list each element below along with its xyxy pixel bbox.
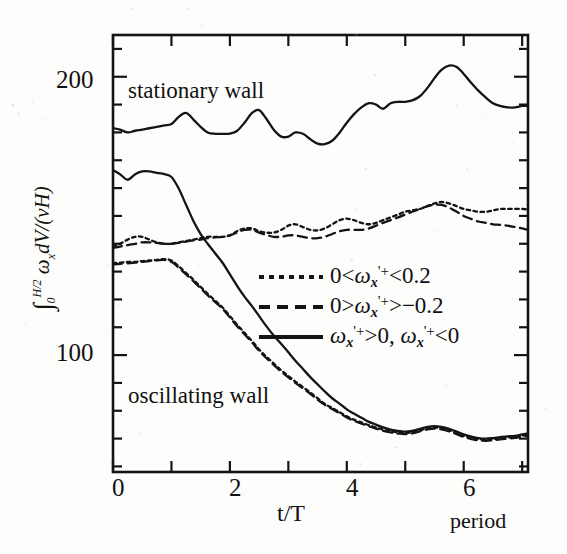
legend-swatch-dashed: [258, 301, 324, 313]
curve-1: [113, 202, 528, 247]
annotation-stationary-wall: stationary wall: [128, 78, 264, 104]
legend-swatch-dotted: [258, 271, 324, 283]
x-tick-label-4: 4: [346, 474, 359, 502]
dv-term: dV: [30, 231, 54, 254]
legend-swatch-solid: [258, 331, 324, 343]
legend-row-dashed: 0>ωx'+>−0.2: [258, 292, 459, 322]
legend: 0<ωx'+<0.2 0>ωx'+>−0.2 ωx'+>0, ωx'+<0: [258, 262, 459, 352]
x-axis-title: t/T: [277, 500, 305, 527]
figure-container: 200 100 0 2 4 6 t/T period ∫0H/2 ωxdV/(ν…: [0, 0, 567, 554]
x-tick-label-0: 0: [112, 474, 125, 502]
omega-x-term: ωx: [30, 254, 54, 274]
y-tick-label-200: 200: [56, 66, 94, 94]
integral-lower-limit: 0: [44, 297, 58, 303]
y-tick-label-100: 100: [56, 339, 94, 367]
legend-label-solid: ωx'+>0, ωx'+<0: [330, 324, 459, 350]
integral-upper-limit: H/2: [30, 279, 44, 297]
annotation-oscillating-wall: oscillating wall: [128, 383, 269, 409]
integral-sign: ∫: [28, 303, 58, 310]
legend-label-dashed: 0>ωx'+>−0.2: [330, 294, 444, 320]
nu-h-term: νH: [30, 193, 54, 218]
legend-label-dotted: 0<ωx'+<0.2: [330, 264, 431, 290]
x-tick-label-6: 6: [463, 474, 476, 502]
y-axis-title: ∫0H/2 ωxdV/(νH): [25, 149, 58, 349]
curve-2: [113, 205, 528, 248]
legend-row-solid: ωx'+>0, ωx'+<0: [258, 322, 459, 352]
legend-row-dotted: 0<ωx'+<0.2: [258, 262, 459, 292]
x-axis-period-note: period: [450, 508, 506, 534]
x-tick-label-2: 2: [229, 474, 242, 502]
